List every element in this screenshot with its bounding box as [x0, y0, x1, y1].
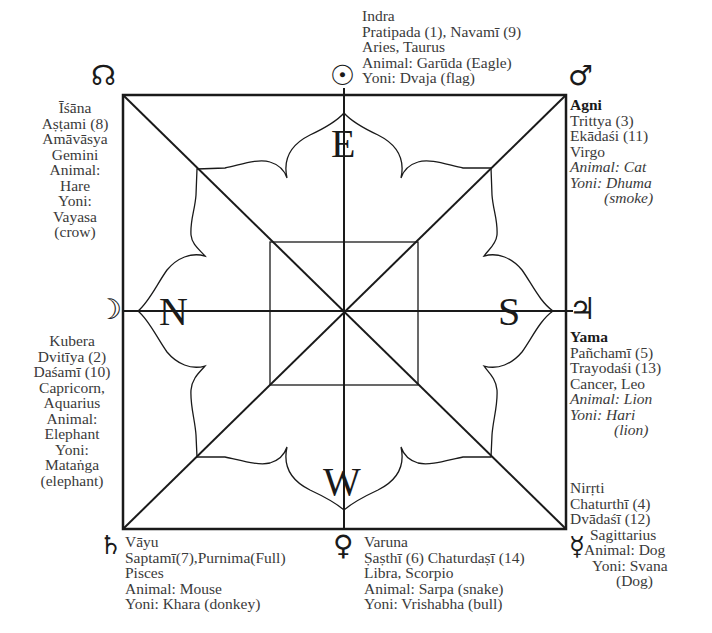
south-animal: Animal: Lion — [570, 391, 661, 407]
east-animal: Animal: Garūda (Eagle) — [362, 55, 521, 71]
west-animal: Animal: Sarpa (snake) — [364, 581, 525, 597]
southeast-tithi-2: Ekādaśi (11) — [570, 128, 653, 144]
southwest-yoni-meaning: (Dog) — [570, 573, 668, 589]
north-node-icon: ☊ — [91, 62, 116, 90]
northwest-deity: Vāyu — [125, 534, 286, 550]
northeast-deity: Īśāna — [30, 100, 120, 116]
northeast-yoni: Vayasa — [30, 209, 120, 225]
southwest-animal: Animal: Dog — [570, 542, 668, 558]
saturn-icon: ♄ — [99, 532, 122, 558]
northeast-animal-label: Animal: — [30, 162, 120, 178]
northwest-tithi: Saptamī(7),Purnima(Full) — [125, 550, 286, 566]
south-yoni-meaning: (lion) — [570, 422, 661, 438]
northeast-tithi-1: Aṣṭami (8) — [30, 116, 120, 132]
southwest-tithi-1: Chaturthī (4) — [570, 496, 668, 512]
east-tithi: Pratipada (1), Navamī (9) — [362, 24, 521, 40]
northwest-info-block: Vāyu Saptamī(7),Purnima(Full) Pisces Ani… — [125, 534, 286, 612]
southeast-yoni: Yoni: Dhuma — [570, 175, 653, 191]
direction-west: W — [323, 462, 361, 502]
moon-icon: ☽ — [97, 296, 122, 324]
southwest-sign: Sagittarius — [570, 527, 668, 543]
northwest-animal: Animal: Mouse — [125, 581, 286, 597]
north-animal-label: Animal: — [22, 411, 122, 427]
north-animal: Elephant — [22, 426, 122, 442]
sun-icon: ☉ — [330, 62, 355, 90]
north-deity: Kubera — [22, 333, 122, 349]
north-yoni-label: Yoni: — [22, 442, 122, 458]
south-tithi-1: Pañchamī (5) — [570, 345, 661, 361]
east-signs: Aries, Taurus — [362, 39, 521, 55]
southwest-info-block: Nirṛti Chaturthī (4) Dvādaśī (12) Sagitt… — [570, 480, 668, 589]
east-yoni: Yoni: Dvaja (flag) — [362, 70, 521, 86]
south-info-block: Yama Pañchamī (5) Trayodaśi (13) Cancer,… — [570, 329, 661, 438]
west-deity: Varuna — [364, 534, 525, 550]
north-sign-2: Aquarius — [22, 395, 122, 411]
south-deity: Yama — [570, 329, 661, 345]
north-yoni: Mataṅga — [22, 457, 122, 473]
west-yoni: Yoni: Vrishabha (bull) — [364, 596, 525, 612]
north-info-block: Kubera Dvitīya (2) Daśamī (10) Capricorn… — [22, 333, 122, 488]
north-tithi-2: Daśamī (10) — [22, 364, 122, 380]
north-sign-1: Capricorn, — [22, 380, 122, 396]
direction-east: E — [331, 124, 355, 164]
direction-south: S — [498, 292, 520, 332]
west-signs: Libra, Scorpio — [364, 565, 525, 581]
north-tithi-1: Dvitīya (2) — [22, 349, 122, 365]
northeast-sign: Gemini — [30, 147, 120, 163]
jupiter-icon: ♃ — [569, 294, 596, 324]
southwest-yoni: Yoni: Svana — [570, 558, 668, 574]
east-deity: Indra — [362, 8, 521, 24]
southeast-info-block: Agni Trittya (3) Ekādaśi (11) Virgo Anim… — [570, 97, 653, 206]
southeast-sign: Virgo — [570, 144, 653, 160]
northeast-tithi-2: Amāvāsya — [30, 131, 120, 147]
east-info-block: Indra Pratipada (1), Navamī (9) Aries, T… — [362, 8, 521, 86]
south-tithi-2: Trayodaśi (13) — [570, 360, 661, 376]
southwest-deity: Nirṛti — [570, 480, 668, 496]
mars-icon: ♂ — [568, 62, 593, 90]
southeast-yoni-meaning: (smoke) — [570, 190, 653, 206]
northeast-yoni-label: Yoni: — [30, 193, 120, 209]
direction-north: N — [159, 292, 188, 332]
west-info-block: Varuna Ṣaṣthī (6) Chaturdaṣī (14) Libra,… — [364, 534, 525, 612]
north-yoni-meaning: (elephant) — [22, 473, 122, 489]
northwest-yoni: Yoni: Khara (donkey) — [125, 596, 286, 612]
southeast-animal: Animal: Cat — [570, 159, 653, 175]
venus-icon: ♀ — [333, 532, 354, 560]
northeast-animal: Hare — [30, 178, 120, 194]
south-signs: Cancer, Leo — [570, 376, 661, 392]
northwest-sign: Pisces — [125, 565, 286, 581]
southeast-tithi-1: Trittya (3) — [570, 113, 653, 129]
southwest-tithi-2: Dvādaśī (12) — [570, 511, 668, 527]
northeast-info-block: Īśāna Aṣṭami (8) Amāvāsya Gemini Animal:… — [30, 100, 120, 240]
south-yoni: Yoni: Hari — [570, 407, 661, 423]
southeast-deity: Agni — [570, 97, 653, 113]
northeast-yoni-meaning: (crow) — [30, 224, 120, 240]
west-tithi: Ṣaṣthī (6) Chaturdaṣī (14) — [364, 550, 525, 566]
